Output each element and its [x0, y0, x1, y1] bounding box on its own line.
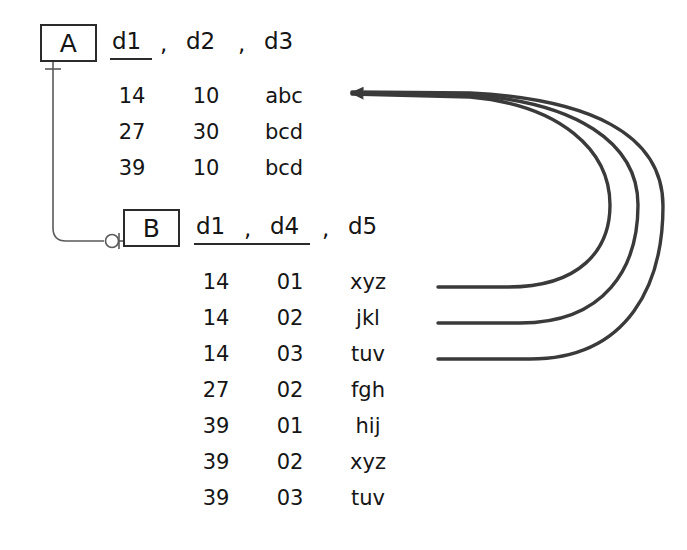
- column-header-b-d1: d1: [196, 215, 225, 238]
- table-a-cell-r1-c0: 27: [108, 122, 156, 143]
- column-header-a-d2: d2: [186, 30, 215, 53]
- table-a-cell-r1-c1: 30: [182, 122, 230, 143]
- table-b-cell-r5-c1: 02: [266, 452, 314, 473]
- table-b-cell-r6-c2: tuv: [340, 488, 396, 509]
- table-b-cell-r2-c1: 03: [266, 344, 314, 365]
- key-underline-b: [194, 243, 310, 245]
- entity-box-b[interactable]: B: [123, 209, 180, 247]
- table-b-cell-r4-c2: hij: [340, 416, 396, 437]
- fk-arrow-tuv-to-abc: [352, 92, 663, 359]
- table-a-cell-r0-c0: 14: [108, 86, 156, 107]
- table-b-cell-r0-c2: xyz: [340, 272, 396, 293]
- table-b-cell-r4-c0: 39: [192, 416, 240, 437]
- table-b-cell-r1-c1: 02: [266, 308, 314, 329]
- cardinality-zero-circle-b: [106, 235, 119, 248]
- column-header-b-d4: d4: [270, 215, 299, 238]
- diagram-canvas: A d1 , d2 , d3 14 10 abc 27 30 bcd 39 10…: [0, 0, 687, 550]
- table-b-cell-r3-c0: 27: [192, 380, 240, 401]
- table-b-cell-r0-c0: 14: [192, 272, 240, 293]
- table-a-cell-r1-c2: bcd: [256, 122, 312, 143]
- column-header-a-d1: d1: [112, 30, 141, 53]
- table-a-cell-r2-c1: 10: [182, 158, 230, 179]
- table-b-cell-r1-c0: 14: [192, 308, 240, 329]
- table-b-cell-r6-c0: 39: [192, 488, 240, 509]
- relationship-line-a-to-b: [53, 62, 104, 241]
- table-b-cell-r5-c0: 39: [192, 452, 240, 473]
- column-header-b-d5: d5: [348, 215, 377, 238]
- entity-box-a[interactable]: A: [40, 24, 97, 62]
- header-separator-a-1: ,: [160, 32, 167, 55]
- table-a-cell-r2-c0: 39: [108, 158, 156, 179]
- header-separator-b-1: ,: [244, 217, 251, 240]
- fk-arrow-xyz-to-abc: [352, 94, 610, 287]
- table-a-cell-r2-c2: bcd: [256, 158, 312, 179]
- table-b-cell-r2-c0: 14: [192, 344, 240, 365]
- table-b-cell-r3-c2: fgh: [340, 380, 396, 401]
- table-a-cell-r0-c2: abc: [256, 86, 312, 107]
- entity-label-b: B: [143, 216, 161, 241]
- key-underline-a: [110, 58, 152, 60]
- table-a-cell-r0-c1: 10: [182, 86, 230, 107]
- header-separator-b-2: ,: [322, 217, 329, 240]
- table-b-cell-r1-c2: jkl: [340, 308, 396, 329]
- table-b-cell-r3-c1: 02: [266, 380, 314, 401]
- table-b-cell-r5-c2: xyz: [340, 452, 396, 473]
- entity-label-a: A: [60, 31, 78, 56]
- table-b-cell-r0-c1: 01: [266, 272, 314, 293]
- header-separator-a-2: ,: [238, 32, 245, 55]
- column-header-a-d3: d3: [264, 30, 293, 53]
- table-b-cell-r6-c1: 03: [266, 488, 314, 509]
- table-b-cell-r4-c1: 01: [266, 416, 314, 437]
- table-b-cell-r2-c2: tuv: [340, 344, 396, 365]
